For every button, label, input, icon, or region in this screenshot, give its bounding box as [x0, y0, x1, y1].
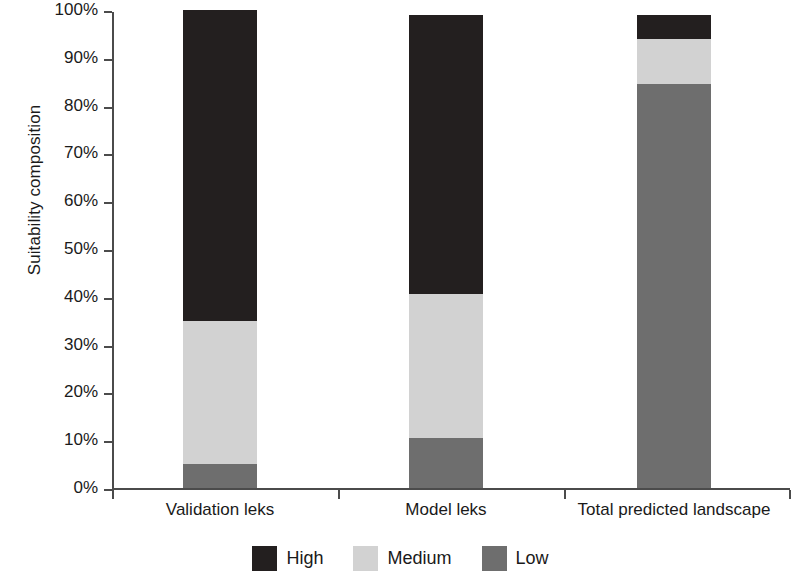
- y-axis-tick: 90%: [104, 59, 112, 61]
- chart-legend: HighMediumLow: [0, 546, 801, 571]
- y-axis-tick: 30%: [104, 346, 112, 348]
- legend-label-low: Low: [516, 548, 549, 569]
- y-axis-line: [112, 12, 114, 490]
- bar-segment-medium: [183, 321, 257, 464]
- legend-label-high: High: [286, 548, 323, 569]
- y-axis-tick-label: 100%: [55, 0, 98, 20]
- y-axis-tick-label: 0%: [73, 478, 98, 498]
- y-axis-tick-label: 20%: [64, 382, 98, 402]
- x-axis-label-validation-leks: Validation leks: [90, 500, 350, 520]
- bar-segment-high: [183, 10, 257, 321]
- y-axis-tick: 70%: [104, 154, 112, 156]
- x-axis-tick: [789, 490, 791, 499]
- legend-swatch-medium: [353, 546, 378, 571]
- x-axis-label-total-predicted-landscape: Total predicted landscape: [544, 500, 801, 520]
- y-axis-tick: 100%: [104, 11, 112, 13]
- bar-total-predicted-landscape[interactable]: [637, 15, 711, 488]
- y-axis-tick-label: 30%: [64, 335, 98, 355]
- y-axis-tick-label: 10%: [64, 430, 98, 450]
- y-axis-tick: 20%: [104, 393, 112, 395]
- legend-swatch-high: [252, 546, 277, 571]
- legend-item-medium[interactable]: Medium: [353, 546, 451, 571]
- bar-segment-medium: [637, 39, 711, 84]
- bar-model-leks[interactable]: [409, 15, 483, 488]
- y-axis-tick: 0%: [104, 489, 112, 491]
- y-axis-tick: 10%: [104, 441, 112, 443]
- legend-item-low[interactable]: Low: [482, 546, 549, 571]
- bar-segment-high: [637, 15, 711, 39]
- y-axis-tick: 50%: [104, 250, 112, 252]
- plot-area: 100%90%80%70%60%50%40%30%20%10%0%: [112, 12, 790, 490]
- legend-swatch-low: [482, 546, 507, 571]
- y-axis-tick: 60%: [104, 202, 112, 204]
- x-axis-tick: [338, 490, 340, 499]
- y-axis-tick-label: 70%: [64, 143, 98, 163]
- bar-segment-low: [183, 464, 257, 488]
- y-axis-tick: 40%: [104, 298, 112, 300]
- y-axis-tick-label: 40%: [64, 287, 98, 307]
- bar-validation-leks[interactable]: [183, 10, 257, 488]
- legend-item-high[interactable]: High: [252, 546, 323, 571]
- stacked-bar-chart: Suitability composition 100%90%80%70%60%…: [0, 0, 801, 585]
- legend-label-medium: Medium: [387, 548, 451, 569]
- bar-segment-medium: [409, 294, 483, 437]
- y-axis-tick-label: 50%: [64, 239, 98, 259]
- x-axis-tick: [112, 490, 114, 499]
- bar-segment-low: [409, 438, 483, 488]
- x-axis-tick: [564, 490, 566, 499]
- y-axis-tick-label: 90%: [64, 48, 98, 68]
- y-axis-tick-label: 80%: [64, 96, 98, 116]
- y-axis-title: Suitability composition: [25, 50, 45, 330]
- x-axis-line: [112, 488, 790, 490]
- bar-segment-high: [409, 15, 483, 295]
- y-axis-tick: 80%: [104, 107, 112, 109]
- y-axis-tick-label: 60%: [64, 191, 98, 211]
- bar-segment-low: [637, 84, 711, 488]
- x-axis-label-model-leks: Model leks: [316, 500, 576, 520]
